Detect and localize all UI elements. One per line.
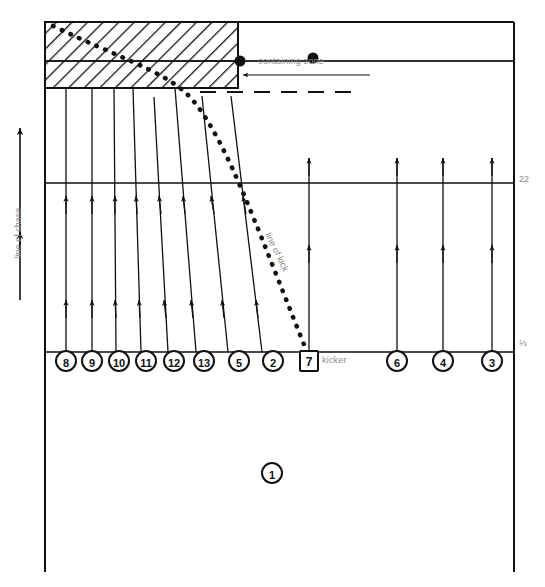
diagram-canvas: containing zone kicker 22 ⅓ line of chas… xyxy=(0,0,545,587)
player-marker-13[interactable]: 13 xyxy=(193,350,215,372)
kicker-label: kicker xyxy=(322,355,347,365)
player-run-lines xyxy=(66,88,492,352)
line-22-label: 22 xyxy=(519,174,529,184)
player-marker-12[interactable]: 12 xyxy=(163,350,185,372)
player-marker-2[interactable]: 2 xyxy=(262,350,284,372)
field-svg xyxy=(0,0,545,587)
player-marker-9[interactable]: 9 xyxy=(81,350,103,372)
line-of-chase-label: line of chase xyxy=(13,208,23,259)
player-marker-8[interactable]: 8 xyxy=(55,350,77,372)
player-marker-1[interactable]: 1 xyxy=(261,462,283,484)
halfway-line-label: ⅓ xyxy=(519,338,527,348)
containing-zone-label: containing zone xyxy=(258,56,324,66)
run-arrowheads xyxy=(66,158,492,318)
containing-zone-hatch xyxy=(45,22,238,88)
player-marker-4[interactable]: 4 xyxy=(432,350,454,372)
player-marker-6[interactable]: 6 xyxy=(386,350,408,372)
player-marker-3[interactable]: 3 xyxy=(481,350,503,372)
player-marker-7[interactable]: 7 xyxy=(299,350,319,372)
player-marker-10[interactable]: 10 xyxy=(108,350,130,372)
player-marker-5[interactable]: 5 xyxy=(228,350,250,372)
player-marker-11[interactable]: 11 xyxy=(135,350,157,372)
